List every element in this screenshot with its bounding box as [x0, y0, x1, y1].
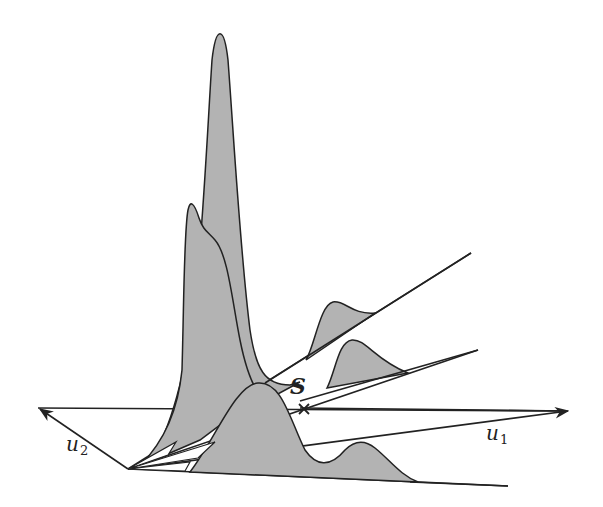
middle-ray-density-bump [327, 340, 408, 388]
u2-axis-label: u2 [66, 432, 88, 458]
u2-label-subscript: 2 [80, 443, 88, 458]
ray-bottom-overlay [410, 482, 508, 486]
u2-label-main: u [66, 432, 79, 456]
diagram-canvas: S u1 u2 [0, 0, 603, 507]
ray-middle-overlay [300, 350, 478, 401]
u1-label-main: u [486, 421, 499, 445]
point-s-label: S [290, 373, 306, 399]
u1-label-subscript: 1 [500, 432, 508, 447]
u1-axis-label: u1 [486, 421, 508, 447]
density-rays-diagram [0, 0, 603, 507]
